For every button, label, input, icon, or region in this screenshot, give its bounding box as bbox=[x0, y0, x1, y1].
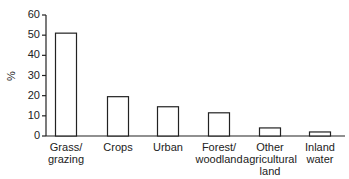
y-tick-label: 60 bbox=[18, 8, 40, 20]
y-axis-label: % bbox=[5, 71, 17, 81]
bar bbox=[310, 132, 331, 136]
bar bbox=[209, 113, 230, 136]
bar bbox=[158, 107, 179, 136]
y-tick-label: 0 bbox=[18, 129, 40, 141]
bars bbox=[56, 33, 331, 136]
y-tick-label: 20 bbox=[18, 89, 40, 101]
y-tick-label: 30 bbox=[18, 69, 40, 81]
x-tick-label: Inlandwater bbox=[280, 141, 349, 165]
bar bbox=[260, 128, 281, 136]
bar bbox=[108, 97, 129, 136]
bar bbox=[56, 33, 77, 136]
y-tick-label: 10 bbox=[18, 109, 40, 121]
axes bbox=[42, 15, 345, 136]
y-tick-label: 50 bbox=[18, 28, 40, 40]
y-tick-label: 40 bbox=[18, 48, 40, 60]
